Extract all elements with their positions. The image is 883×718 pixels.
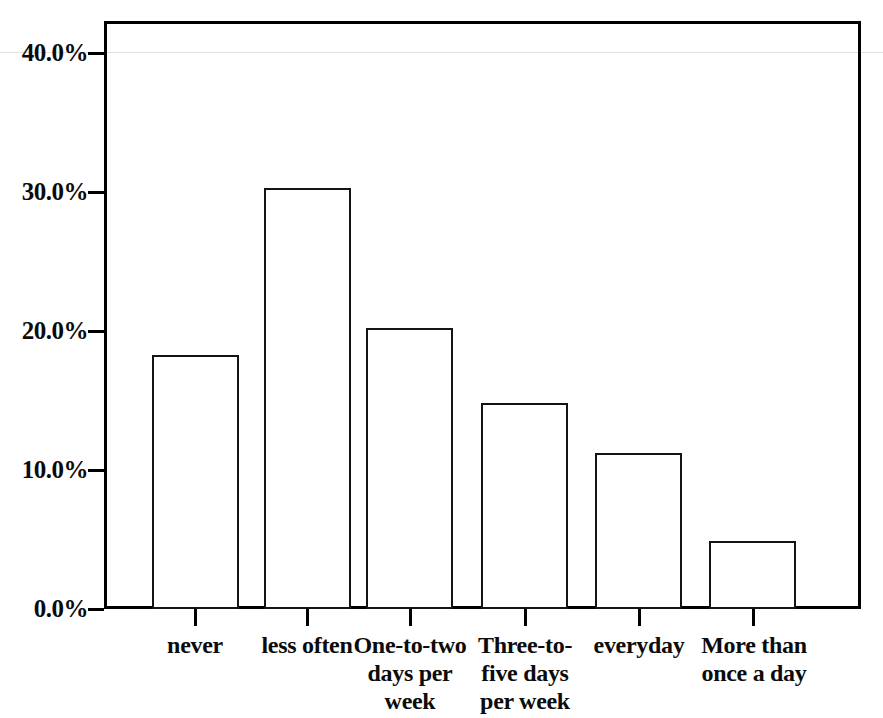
y-axis-label-30: 30.0% [2,179,88,204]
bar-one-to-two-days [366,328,453,609]
x-axis-label-line: More than [701,632,807,658]
x-axis-tick-three-to-five-days [524,609,527,626]
x-axis-label-line: Three-to- [478,632,572,658]
bar-chart: 0.0% 10.0% 20.0% 30.0% 40.0% never less … [0,0,883,718]
bar-three-to-five-days [481,403,568,609]
x-axis-tick-one-to-two-days [409,609,412,626]
x-axis-label-more-than-once-a-day: More thanonce a day [684,631,824,687]
x-axis-label-line: five days [481,660,568,686]
x-axis-label-line: per week [480,688,570,714]
x-axis-label-one-to-two-days: One-to-twodays perweek [347,631,473,715]
bar-less-often [264,188,351,609]
x-axis-label-line: days per [368,660,453,686]
x-axis-label-line: once a day [701,660,806,686]
x-axis-tick-everyday [638,609,641,626]
bar-more-than-once-a-day [709,541,796,609]
x-axis-label-line: One-to-two [354,632,467,658]
y-axis-tick-40 [88,52,104,55]
x-axis-label-never: never [138,631,252,659]
y-axis-tick-10 [88,469,104,472]
x-axis-label-three-to-five-days: Three-to-five daysper week [462,631,588,715]
y-axis-label-40: 40.0% [2,40,88,65]
y-axis-label-10: 10.0% [2,457,88,482]
x-axis-label-line: week [385,688,436,714]
y-axis-tick-0 [88,608,104,611]
x-axis-tick-more-than-once-a-day [752,609,755,626]
bar-never [152,355,239,609]
x-axis-tick-never [194,609,197,626]
y-axis-tick-20 [88,330,104,333]
y-axis-label-20: 20.0% [2,318,88,343]
x-axis-tick-less-often [306,609,309,626]
bar-everyday [595,453,682,609]
y-axis-label-0: 0.0% [2,596,88,621]
y-axis-tick-30 [88,191,104,194]
